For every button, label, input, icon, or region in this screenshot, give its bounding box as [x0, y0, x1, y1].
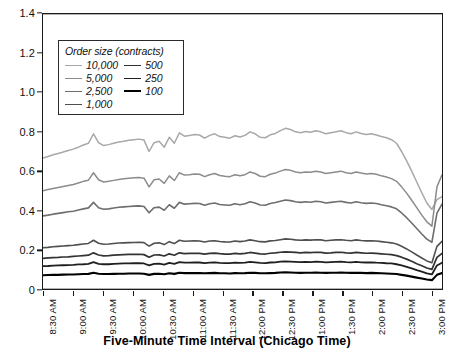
y-tick-label: 0.6 [19, 165, 35, 177]
y-tick-label: 0.4 [19, 205, 35, 217]
x-tick-label: 9:00 AM [77, 299, 88, 335]
legend-swatch-line-icon [124, 65, 141, 66]
x-tick-mark [103, 291, 104, 296]
x-tick-mark [402, 291, 403, 296]
legend-swatch-line-icon [65, 65, 82, 66]
legend-swatch-line-icon [65, 78, 82, 79]
series-line-10000 [43, 128, 442, 209]
series-line-1000 [43, 239, 442, 263]
series-line-100 [43, 272, 442, 280]
legend-label: 500 [145, 59, 163, 71]
legend-column-left: 10,0005,0002,5001,000 [65, 59, 118, 110]
series-line-500 [43, 252, 442, 269]
x-tick-label: 3:00 PM [436, 299, 447, 335]
legend-entry: 100 [124, 85, 163, 97]
x-tick-mark [163, 291, 164, 296]
x-tick-label: 2:00 PM [376, 299, 387, 335]
y-tick-label: 1.0 [19, 86, 35, 98]
legend-entry: 250 [124, 72, 163, 84]
legend-entry: 1,000 [65, 98, 118, 110]
legend-column-right: 500250100 [124, 59, 163, 110]
legend-entry: 2,500 [65, 85, 118, 97]
chart-container: 00.20.40.60.81.01.21.4 8:30 AM9:00 AM9:3… [0, 0, 454, 358]
x-tick-label: 1:00 PM [316, 299, 327, 335]
x-tick-mark [43, 291, 44, 296]
legend-entry: 500 [124, 59, 163, 71]
y-tick-label: 1.4 [19, 7, 35, 19]
legend-swatch-line-icon [124, 90, 141, 92]
legend-label: 10,000 [86, 59, 118, 71]
y-tick-label: 0.2 [19, 244, 35, 256]
x-tick-mark [312, 291, 313, 296]
series-line-5000 [43, 170, 442, 227]
y-tick-label: 1.2 [19, 47, 35, 59]
series-line-2500 [43, 200, 442, 242]
legend-label: 100 [145, 85, 163, 97]
legend-label: 5,000 [86, 72, 112, 84]
x-tick-label: 1:30 PM [346, 299, 357, 335]
x-tick-mark [432, 291, 433, 296]
legend-swatch-line-icon [65, 91, 82, 92]
x-tick-mark [133, 291, 134, 296]
x-tick-mark [372, 291, 373, 296]
legend-entry: 5,000 [65, 72, 118, 84]
x-axis-title: Five-Minute Time Interval (Chicago Time) [0, 334, 454, 348]
legend-label: 1,000 [86, 98, 112, 110]
legend: Order size (contracts) 10,0005,0002,5001… [58, 40, 184, 115]
x-tick-label: 2:30 PM [406, 299, 417, 335]
y-tick-label: 0.8 [19, 126, 35, 138]
y-axis: 00.20.40.60.81.01.21.4 [0, 0, 42, 303]
x-tick-mark [73, 291, 74, 296]
legend-swatch-line-icon [124, 78, 141, 79]
legend-title: Order size (contracts) [65, 45, 178, 57]
legend-label: 2,500 [86, 85, 112, 97]
x-tick-mark [223, 291, 224, 296]
x-tick-mark [252, 291, 253, 296]
x-tick-mark [193, 291, 194, 296]
legend-entry: 10,000 [65, 59, 118, 71]
legend-swatch-line-icon [65, 104, 82, 105]
x-tick-label: 8:30 AM [47, 299, 58, 335]
x-tick-mark [342, 291, 343, 296]
x-tick-mark [282, 291, 283, 296]
x-tick-label: 9:30 AM [107, 299, 118, 335]
legend-label: 250 [145, 72, 163, 84]
